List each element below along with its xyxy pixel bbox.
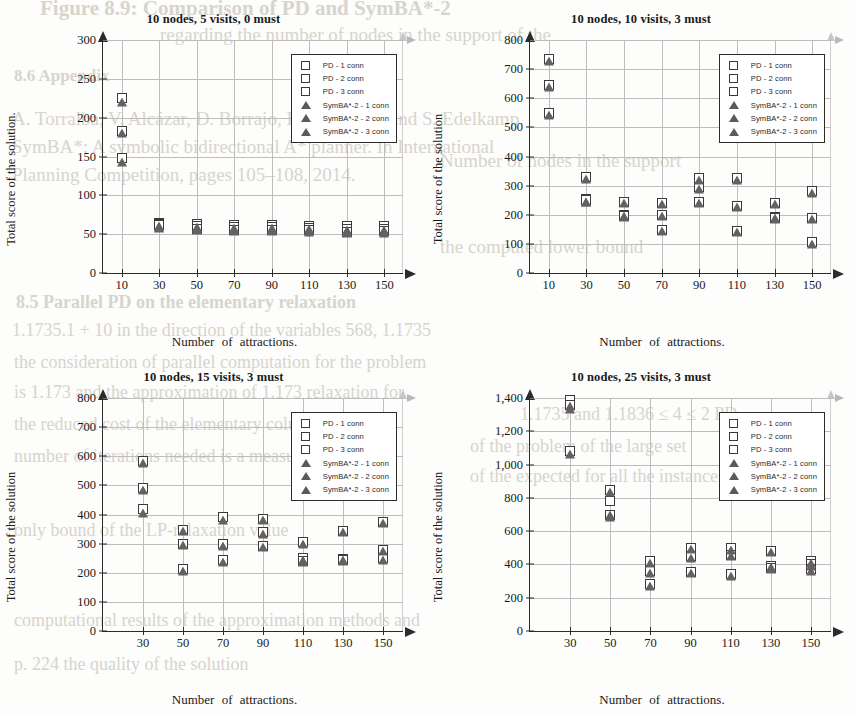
y-tick-label: 150: [77, 149, 103, 164]
x-tick-label: 110: [728, 273, 746, 293]
legend-triangle-icon: [297, 486, 315, 494]
legend-label: PD - 2 conn: [743, 74, 792, 83]
gridline-horizontal: [530, 398, 831, 399]
data-point-triangle: [544, 83, 554, 92]
chart-panel-top-right: 10 nodes, 10 visits, 3 must Total score …: [427, 0, 855, 358]
legend-label: SymBA*-2 - 2 conn: [743, 114, 817, 123]
gridline-horizontal: [530, 215, 831, 216]
chart-title: 10 nodes, 25 visits, 3 must: [427, 370, 855, 385]
data-point-triangle: [178, 566, 188, 575]
x-axis-arrow-icon: [833, 627, 844, 637]
x-tick-label: 130: [761, 631, 780, 651]
legend-square-icon: [725, 87, 743, 96]
legend-label: PD - 1 conn: [315, 419, 364, 428]
legend-triangle-icon: [725, 101, 743, 109]
legend-item[interactable]: SymBA*-2 - 1 conn: [297, 99, 389, 112]
chart-title: 10 nodes, 15 visits, 3 must: [0, 370, 427, 385]
x-tick-label: 30: [153, 273, 166, 293]
data-point-triangle: [544, 56, 554, 65]
top-rule-arrow-icon: [835, 36, 844, 44]
legend-triangle-icon: [725, 128, 743, 136]
legend-square-icon: [725, 61, 743, 70]
x-axis-title: Number of attractions.: [483, 692, 841, 708]
legend-item[interactable]: PD - 2 conn: [297, 72, 389, 85]
y-tick-label: 0: [517, 624, 530, 639]
legend-item[interactable]: SymBA*-2 - 2 conn: [725, 112, 817, 125]
legend-item[interactable]: SymBA*-2 - 3 conn: [297, 125, 389, 138]
legend-item[interactable]: SymBA*-2 - 2 conn: [297, 470, 389, 483]
data-point-triangle: [218, 557, 228, 566]
gridline-vertical: [183, 398, 184, 631]
gridline-horizontal: [103, 195, 403, 196]
legend-item[interactable]: SymBA*-2 - 3 conn: [725, 125, 817, 138]
legend-label: PD - 2 conn: [315, 432, 364, 441]
data-point-triangle: [178, 527, 188, 536]
data-point-triangle: [807, 188, 817, 197]
legend-item[interactable]: PD - 2 conn: [725, 430, 817, 443]
data-point-triangle: [770, 199, 780, 208]
legend-item[interactable]: PD - 1 conn: [725, 59, 817, 72]
plot-right-rule: [830, 398, 831, 631]
x-tick-label: 130: [765, 273, 784, 293]
data-point-triangle: [258, 516, 268, 525]
y-tick-label: 500: [504, 120, 530, 135]
legend-triangle-icon: [725, 486, 743, 494]
x-tick-label: 150: [374, 631, 393, 651]
top-rule-arrow-icon: [407, 36, 416, 44]
y-tick-label: 0: [90, 266, 103, 281]
legend-square-icon: [297, 61, 315, 70]
data-point-triangle: [218, 541, 228, 550]
legend-item[interactable]: PD - 2 conn: [725, 72, 817, 85]
gridline-horizontal: [530, 531, 831, 532]
legend-item[interactable]: PD - 2 conn: [297, 430, 389, 443]
data-point-square: [605, 496, 615, 506]
legend-item[interactable]: SymBA*-2 - 1 conn: [725, 457, 817, 470]
y-tick-label: 0: [90, 624, 103, 639]
x-tick-label: 110: [300, 273, 318, 293]
x-tick-label: 70: [655, 273, 668, 293]
legend-item[interactable]: PD - 3 conn: [297, 85, 389, 98]
y-tick-label: 800: [504, 33, 530, 48]
data-point-triangle: [806, 567, 816, 576]
data-point-triangle: [770, 215, 780, 224]
legend-label: PD - 2 conn: [743, 432, 792, 441]
legend-item[interactable]: SymBA*-2 - 1 conn: [725, 99, 817, 112]
data-point-triangle: [581, 198, 591, 207]
data-point-triangle: [645, 568, 655, 577]
data-point-triangle: [694, 175, 704, 184]
x-axis-title: Number of attractions.: [56, 334, 413, 350]
legend-square-icon: [725, 432, 743, 441]
top-rule-arrow-icon: [835, 394, 844, 402]
legend-label: PD - 1 conn: [743, 61, 792, 70]
legend-item[interactable]: SymBA*-2 - 2 conn: [297, 112, 389, 125]
legend-item[interactable]: PD - 3 conn: [725, 443, 817, 456]
y-axis-title: Total score of the solution: [431, 432, 446, 642]
data-point-triangle: [154, 223, 164, 232]
legend-item[interactable]: PD - 3 conn: [297, 443, 389, 456]
gridline-horizontal: [530, 244, 831, 245]
legend-label: PD - 1 conn: [743, 419, 792, 428]
legend-item[interactable]: SymBA*-2 - 1 conn: [297, 457, 389, 470]
y-tick-label: 250: [77, 71, 103, 86]
x-tick-label: 70: [228, 273, 241, 293]
data-point-triangle: [379, 228, 389, 237]
legend-item[interactable]: SymBA*-2 - 2 conn: [725, 470, 817, 483]
legend-item[interactable]: PD - 3 conn: [725, 85, 817, 98]
x-tick-label: 90: [684, 631, 697, 651]
gridline-vertical: [650, 398, 651, 631]
data-point-triangle: [694, 184, 704, 193]
gridline-horizontal: [530, 157, 831, 158]
plot-area: 02004006008001,0001,2001,400305070901101…: [529, 398, 831, 632]
legend-item[interactable]: PD - 1 conn: [297, 59, 389, 72]
legend-square-icon: [725, 74, 743, 83]
legend-item[interactable]: PD - 1 conn: [297, 417, 389, 430]
data-point-triangle: [645, 559, 655, 568]
x-axis-arrow-icon: [405, 269, 416, 279]
x-axis-title: Number of attractions.: [483, 334, 841, 350]
y-tick-label: 100: [504, 236, 530, 251]
legend-item[interactable]: SymBA*-2 - 3 conn: [297, 483, 389, 496]
x-tick-label: 30: [580, 273, 593, 293]
legend-item[interactable]: PD - 1 conn: [725, 417, 817, 430]
legend-item[interactable]: SymBA*-2 - 3 conn: [725, 483, 817, 496]
legend-label: SymBA*-2 - 2 conn: [315, 472, 389, 481]
